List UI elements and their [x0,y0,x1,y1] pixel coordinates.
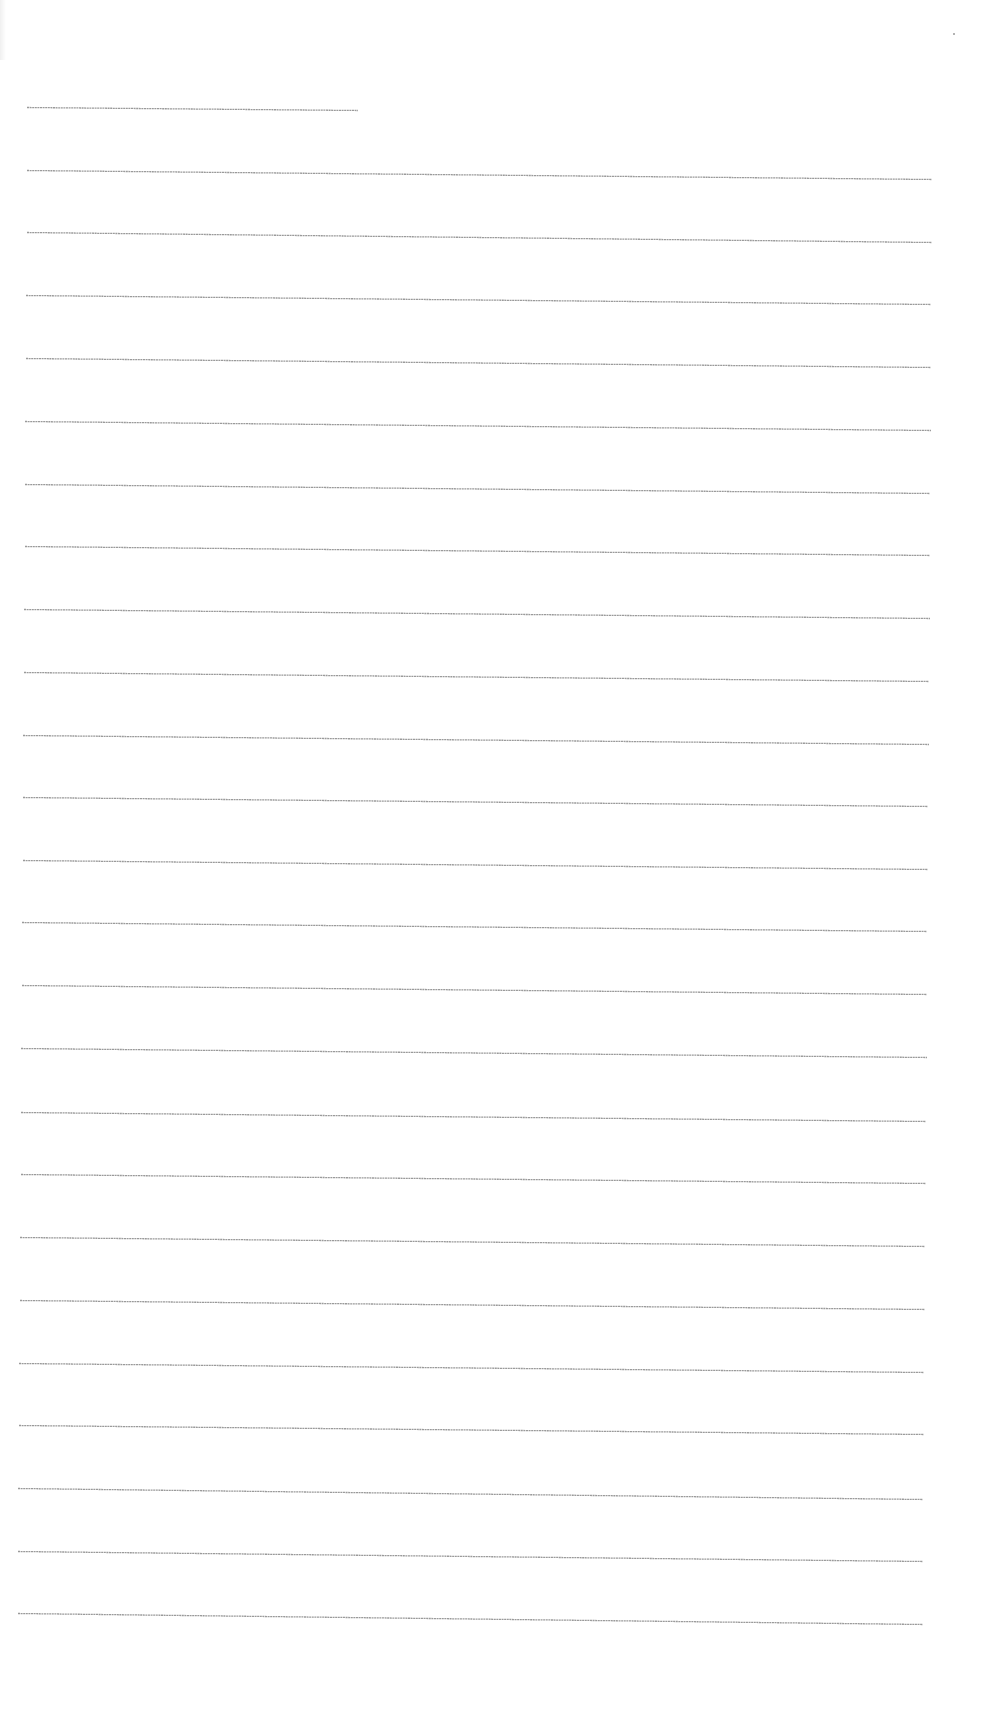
writing-line [18,1489,923,1500]
lined-paper-page [0,0,992,1726]
writing-line [25,485,930,494]
writing-lines [18,171,932,1625]
writing-line [26,359,931,368]
writing-line [20,1238,925,1247]
writing-line [22,986,927,995]
writing-line [18,1614,923,1625]
writing-line [18,1552,923,1562]
scan-speck [953,33,955,35]
writing-line [24,610,930,619]
writing-line [25,422,931,431]
writing-line [26,296,931,305]
writing-line [21,1175,926,1184]
header-line [27,108,358,111]
writing-line [25,547,930,556]
writing-line [24,673,929,682]
writing-line [21,1049,927,1058]
writing-line [23,736,929,745]
ruled-lines [0,0,992,1726]
writing-line [23,798,928,807]
writing-line [22,923,927,932]
writing-line [20,1301,925,1310]
writing-line [19,1426,924,1435]
writing-line [19,1364,924,1373]
writing-line [27,171,932,180]
header-line [27,108,358,111]
writing-line [21,1113,926,1122]
writing-line [23,861,928,870]
writing-line [27,233,932,243]
